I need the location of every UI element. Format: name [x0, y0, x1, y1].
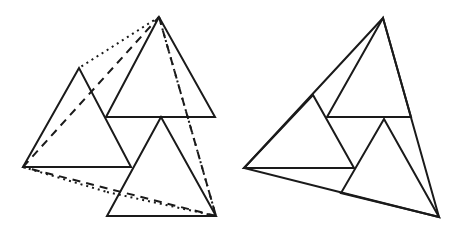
left-figure	[23, 17, 216, 216]
dashed-line	[23, 167, 216, 216]
top-triangle	[106, 17, 215, 117]
right-figure	[244, 18, 439, 217]
dashed-line	[23, 17, 159, 167]
dotted-line	[23, 167, 107, 192]
inner-left	[244, 95, 354, 168]
diagram-canvas	[0, 0, 451, 235]
